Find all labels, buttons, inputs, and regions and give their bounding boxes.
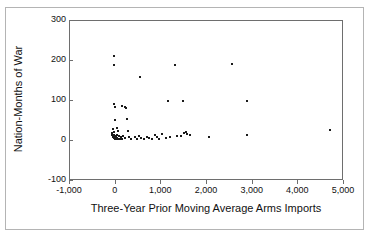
x-tick-mark	[160, 180, 161, 184]
data-point	[186, 133, 188, 135]
data-point	[174, 64, 176, 66]
data-point	[143, 138, 145, 140]
data-point	[125, 107, 127, 109]
data-point	[113, 103, 115, 105]
data-point	[246, 100, 248, 102]
data-point	[136, 138, 138, 140]
data-point	[182, 100, 184, 102]
y-tick-mark	[69, 140, 73, 141]
x-tick-label: 0	[112, 185, 117, 195]
data-point	[126, 118, 128, 120]
scatter-plot-figure: Nation-Months of War 3002001000-100 -1,0…	[0, 0, 371, 237]
data-point	[113, 64, 115, 66]
x-tick-label: 1,000	[149, 185, 172, 195]
data-point	[158, 138, 160, 140]
data-point	[113, 55, 115, 57]
y-tick-label: 300	[51, 15, 66, 24]
x-tick-label: 3,000	[240, 185, 263, 195]
data-point	[167, 100, 169, 102]
data-point	[114, 106, 116, 108]
x-tick-label: -1,000	[56, 185, 82, 195]
x-tick-mark	[252, 180, 253, 184]
data-point	[189, 134, 191, 136]
plot-area	[69, 20, 343, 180]
x-tick-label: 4,000	[286, 185, 309, 195]
x-tick-label: 2,000	[195, 185, 218, 195]
data-point	[329, 129, 331, 131]
data-point	[176, 135, 178, 137]
data-point	[169, 136, 171, 138]
y-axis-tick-labels: 3002001000-100	[30, 0, 66, 237]
y-tick-label: -100	[48, 175, 66, 184]
data-point	[127, 130, 129, 132]
data-point	[114, 119, 116, 121]
data-point	[146, 136, 148, 138]
data-points-layer	[70, 21, 342, 179]
y-tick-label: 200	[51, 55, 66, 64]
data-point	[180, 135, 182, 137]
data-point	[161, 133, 163, 135]
data-point	[112, 128, 114, 130]
data-point	[130, 138, 132, 140]
data-point	[246, 134, 248, 136]
data-point	[148, 137, 150, 139]
y-tick-label: 0	[61, 135, 66, 144]
data-point	[140, 137, 142, 139]
x-tick-mark	[297, 180, 298, 184]
data-point	[124, 137, 126, 139]
x-tick-mark	[69, 180, 70, 184]
y-tick-mark	[69, 60, 73, 61]
x-axis-title: Three-Year Prior Moving Average Arms Imp…	[69, 202, 343, 214]
data-point	[208, 136, 210, 138]
data-point	[139, 76, 141, 78]
data-point	[121, 138, 123, 140]
y-tick-label: 100	[51, 95, 66, 104]
x-tick-mark	[206, 180, 207, 184]
data-point	[165, 137, 167, 139]
y-tick-mark	[69, 100, 73, 101]
data-point	[113, 131, 115, 133]
data-point	[231, 63, 233, 65]
data-point	[121, 105, 123, 107]
y-tick-mark	[69, 20, 73, 21]
x-tick-label: 5,000	[332, 185, 355, 195]
y-axis-title: Nation-Months of War	[12, 19, 24, 179]
x-tick-mark	[343, 180, 344, 184]
x-tick-mark	[115, 180, 116, 184]
data-point	[117, 130, 119, 132]
data-point	[151, 138, 153, 140]
data-point	[116, 127, 118, 129]
